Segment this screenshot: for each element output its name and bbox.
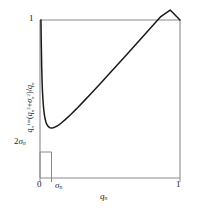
function-curve	[41, 10, 180, 128]
y-axis-title: qn1=(qn2+σn2)/qn	[26, 53, 35, 163]
y-axis-tick-label-two-sigma: 2σn	[14, 137, 26, 147]
minimum-guide-lines	[40, 152, 52, 178]
y-axis-tick-label-one: 1	[29, 14, 34, 23]
plot-frame	[40, 20, 180, 178]
x-axis-tick-label-one: 1	[176, 180, 181, 189]
x-axis-tick-label-sigma: σn	[55, 181, 62, 191]
figure-container: 1 2σn 0 σn 1 qn qn1=(qn2+σn2)/qn	[0, 0, 200, 215]
x-axis-tick-label-zero: 0	[37, 180, 42, 189]
x-axis-title: qn	[100, 192, 107, 202]
